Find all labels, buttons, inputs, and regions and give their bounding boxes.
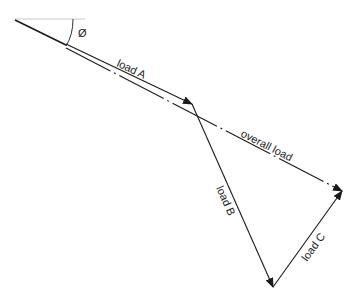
overall-load-label: overall load <box>239 127 295 163</box>
load-a-label: load A <box>115 57 148 81</box>
load-b-vector <box>192 104 273 287</box>
load-c-vector <box>273 191 342 287</box>
overall-load-vector <box>66 48 342 191</box>
force-diagram: Ø load A overall load load B load C <box>0 0 359 305</box>
tail-line <box>15 20 66 45</box>
load-c-label: load C <box>299 230 327 263</box>
angle-arc <box>66 19 73 46</box>
angle-label: Ø <box>78 27 87 39</box>
